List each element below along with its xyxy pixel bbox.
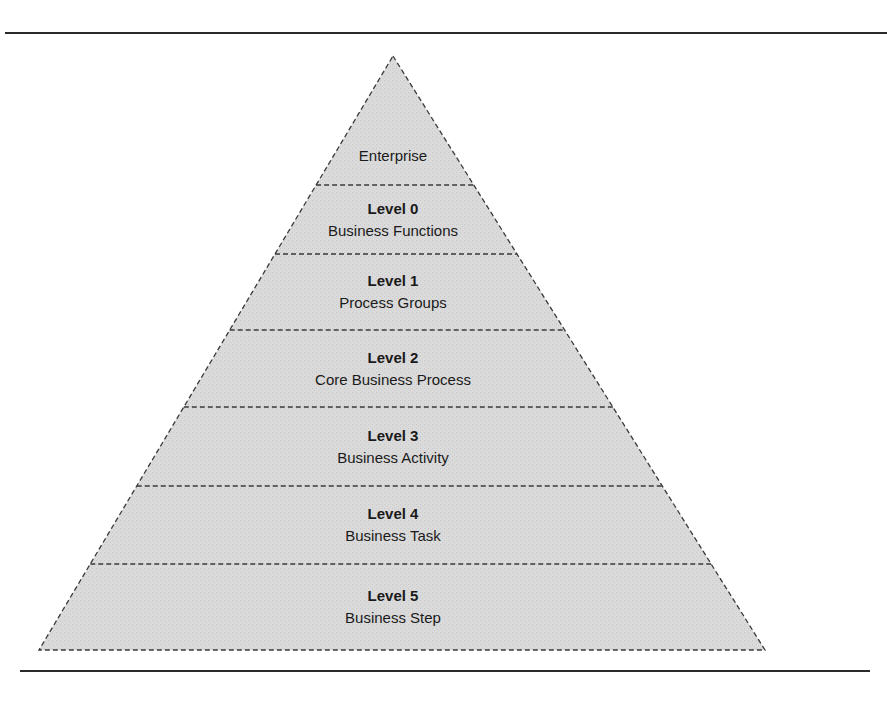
- tier-label: Level 1Process Groups: [243, 270, 543, 314]
- tier-name: Enterprise: [243, 145, 543, 167]
- tier-name: Core Business Process: [243, 369, 543, 391]
- tier-label: Level 0Business Functions: [243, 198, 543, 242]
- tier-name: Business Step: [243, 607, 543, 629]
- tier-name: Business Functions: [243, 220, 543, 242]
- tier-level: Level 0: [243, 198, 543, 220]
- tier-level: Level 2: [243, 347, 543, 369]
- tier-label: Enterprise: [243, 145, 543, 167]
- tier-name: Business Task: [243, 525, 543, 547]
- tier-name: Process Groups: [243, 292, 543, 314]
- tier-name: Business Activity: [243, 447, 543, 469]
- tier-level: Level 4: [243, 503, 543, 525]
- tier-level: Level 5: [243, 585, 543, 607]
- tier-label: Level 3Business Activity: [243, 425, 543, 469]
- tier-level: Level 3: [243, 425, 543, 447]
- tier-level: Level 1: [243, 270, 543, 292]
- tier-label: Level 4Business Task: [243, 503, 543, 547]
- tier-label: Level 5Business Step: [243, 585, 543, 629]
- tier-label: Level 2Core Business Process: [243, 347, 543, 391]
